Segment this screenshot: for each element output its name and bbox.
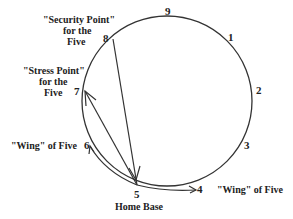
point-7: 7 xyxy=(74,85,80,97)
point-3: 3 xyxy=(244,139,250,151)
enneagram-diagram: 9 1 2 3 4 5 6 7 8 "Security Point" for t… xyxy=(0,0,293,219)
point-5: 5 xyxy=(134,188,140,200)
security-label-line2: for the xyxy=(63,25,92,36)
stress-label-line3: Five xyxy=(44,87,63,98)
point-9: 9 xyxy=(165,5,171,17)
point-1: 1 xyxy=(228,31,234,43)
point-2: 2 xyxy=(256,84,262,96)
point-4: 4 xyxy=(197,183,203,195)
point-8: 8 xyxy=(103,32,109,44)
wing-right-label: "Wing" of Five xyxy=(217,184,283,195)
wing-right-arrowhead-icon xyxy=(189,186,196,193)
stress-label-line2: for the xyxy=(39,76,68,87)
wing-left-label: "Wing" of Five xyxy=(11,140,77,151)
security-label-line1: "Security Point" xyxy=(43,14,115,25)
home-base-label: Home Base xyxy=(115,201,164,212)
wing-left-arrowhead-icon xyxy=(89,146,94,154)
wing-arc-left xyxy=(90,146,137,185)
stress-label-line1: "Stress Point" xyxy=(23,65,85,76)
security-label-line3: Five xyxy=(67,36,86,47)
point-6: 6 xyxy=(84,139,90,151)
